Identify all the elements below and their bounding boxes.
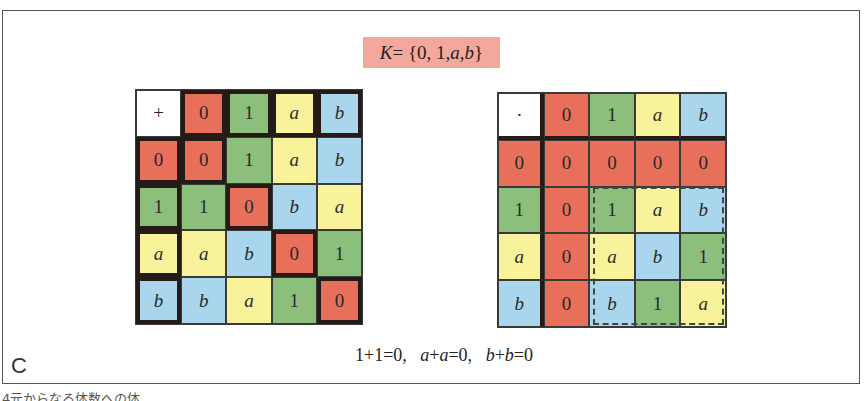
add-cell: b <box>272 184 317 231</box>
mul-cell: 0 <box>589 140 635 187</box>
mul-cell: 0 <box>635 140 681 187</box>
mul-cell: 0 <box>680 140 726 187</box>
caption-text: 4元からなる体数への体 <box>2 388 140 401</box>
add-cell: b <box>181 277 226 324</box>
add-cell: 0 <box>317 277 362 324</box>
add-cell: b <box>226 230 271 277</box>
mul-cell: a <box>589 233 635 280</box>
add-cell: 0 <box>181 137 226 184</box>
add-cell: a <box>226 277 271 324</box>
add-cell: a <box>181 230 226 277</box>
title-close: } <box>474 42 483 64</box>
eq-part: =0 <box>514 345 533 365</box>
mul-row-label: a <box>498 233 544 280</box>
identity-equation: 1+1=0, a+a=0, b+b=0 <box>355 345 533 366</box>
mul-cell: 0 <box>544 233 590 280</box>
set-definition-title: K = {0, 1, a, b} <box>363 37 500 68</box>
eq-var: a <box>420 345 429 365</box>
eq-part: + <box>429 345 439 365</box>
add-cell: 1 <box>181 184 226 231</box>
title-eq: = {0, 1, <box>392 42 450 64</box>
add-cell: 0 <box>226 184 271 231</box>
multiplication-table: · 0 1 a b 0 0 0 0 0 1 0 1 a b a 0 a b 1 … <box>497 92 727 328</box>
mul-row-label: 1 <box>498 187 544 234</box>
mul-cell: 0 <box>544 140 590 187</box>
mul-cell: b <box>680 187 726 234</box>
eq-part: + <box>495 345 505 365</box>
mul-cell: 0 <box>544 187 590 234</box>
add-cell: a <box>272 137 317 184</box>
mul-cell: 1 <box>589 187 635 234</box>
mul-cell: 1 <box>635 280 681 327</box>
add-row-label: 0 <box>136 137 181 184</box>
addition-table: + 0 1 a b 0 0 1 a b 1 1 0 b a a a b 0 1 … <box>135 89 363 325</box>
eq-part: =0, <box>448 345 485 365</box>
mul-cell: a <box>680 280 726 327</box>
add-row-label: a <box>136 230 181 277</box>
mul-cell: b <box>635 233 681 280</box>
add-cell: 0 <box>272 230 317 277</box>
title-a: a <box>450 42 460 64</box>
add-cell: a <box>317 184 362 231</box>
mul-operator-cell: · <box>498 93 544 140</box>
title-k: K <box>380 42 393 64</box>
mul-header-cell: 0 <box>544 93 590 140</box>
add-operator-cell: + <box>136 90 181 137</box>
mul-cell: 1 <box>680 233 726 280</box>
mul-row-label: 0 <box>498 140 544 187</box>
mul-cell: b <box>589 280 635 327</box>
eq-var: b <box>505 345 514 365</box>
panel-label: C <box>11 353 27 379</box>
mul-row-label: b <box>498 280 544 327</box>
add-header-cell: 1 <box>226 90 271 137</box>
mul-cell: a <box>635 187 681 234</box>
mul-header-cell: a <box>635 93 681 140</box>
eq-part: 1+1=0, <box>355 345 420 365</box>
add-header-cell: b <box>317 90 362 137</box>
mul-header-cell: b <box>680 93 726 140</box>
add-header-cell: 0 <box>181 90 226 137</box>
title-b: b <box>465 42 475 64</box>
eq-var: b <box>486 345 495 365</box>
add-header-cell: a <box>272 90 317 137</box>
add-row-label: 1 <box>136 184 181 231</box>
add-cell: 1 <box>226 137 271 184</box>
add-cell: 1 <box>317 230 362 277</box>
add-cell: b <box>317 137 362 184</box>
add-cell: 1 <box>272 277 317 324</box>
mul-cell: 0 <box>544 280 590 327</box>
mul-header-cell: 1 <box>589 93 635 140</box>
add-row-label: b <box>136 277 181 324</box>
